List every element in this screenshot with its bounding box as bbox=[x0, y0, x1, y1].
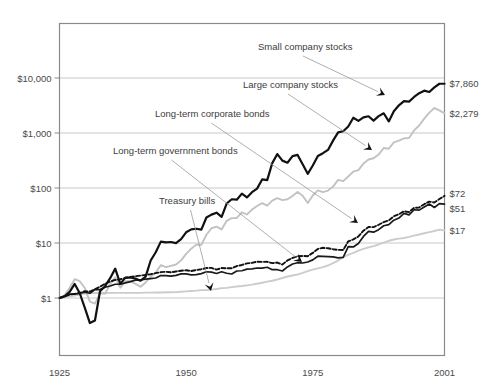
wealth-index-chart: $1$10$100$1,000$10,000 1925195019752001 … bbox=[0, 0, 500, 390]
y-tick-label: $100 bbox=[30, 183, 51, 194]
end-value-label: $2,279 bbox=[450, 108, 479, 119]
y-tick-label: $10 bbox=[36, 238, 52, 249]
annotation-label: Treasury bills bbox=[159, 195, 215, 206]
y-tick-label: $10,000 bbox=[17, 73, 51, 84]
y-tick-label: $1,000 bbox=[22, 128, 51, 139]
end-value-label: $17 bbox=[450, 225, 466, 236]
annotation-label: Long-term government bonds bbox=[113, 145, 238, 156]
annotation-label: Large company stocks bbox=[243, 79, 338, 90]
x-tick-label: 2001 bbox=[434, 367, 455, 378]
end-value-label: $7,860 bbox=[450, 78, 479, 89]
y-tick-label: $1 bbox=[41, 293, 52, 304]
x-tick-label: 1925 bbox=[49, 367, 70, 378]
chart-canvas: $1$10$100$1,000$10,000 1925195019752001 … bbox=[0, 0, 500, 390]
end-value-label: $51 bbox=[450, 203, 466, 214]
annotation-label: Long-term corporate bonds bbox=[155, 108, 270, 119]
x-tick-label: 1975 bbox=[302, 367, 323, 378]
annotation-label: Small company stocks bbox=[258, 41, 353, 52]
x-tick-label: 1950 bbox=[176, 367, 197, 378]
end-value-label: $72 bbox=[450, 188, 466, 199]
